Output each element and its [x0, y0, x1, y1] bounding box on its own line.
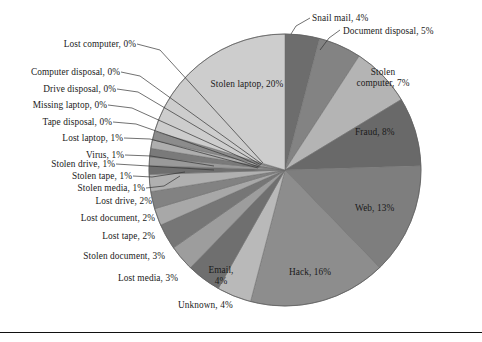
slice-label-stolen-document: Stolen document, 3% [0, 251, 165, 261]
slice-label-document-disposal: Document disposal, 5% [343, 26, 434, 36]
slice-label-unknown: Unknown, 4% [178, 300, 233, 310]
slice-label-fraud: Fraud, 8% [355, 127, 395, 137]
slice-label-web: Web, 13% [355, 203, 394, 213]
slice-label-hack: Hack, 16% [289, 267, 331, 277]
slice-label-lost-drive: Lost drive, 2% [0, 196, 152, 206]
slice-label-missing-laptop: Missing laptop, 0% [0, 100, 107, 110]
slice-label-drive-disposal: Drive disposal, 0% [0, 84, 116, 94]
slice-label-tape-disposal: Tape disposal, 0% [0, 117, 112, 127]
slice-label-stolen-computer-line2: computer, 7% [343, 78, 423, 88]
slice-label-lost-computer: Lost computer, 0% [0, 39, 136, 49]
slice-label-computer-disposal: Computer disposal, 0% [0, 67, 120, 77]
slice-label-stolen-computer-line1: Stolen [343, 67, 423, 77]
leader-snail-mail [291, 18, 310, 34]
slice-label-stolen-tape: Stolen tape, 1% [0, 171, 132, 181]
slice-label-stolen-media: Stolen media, 1% [0, 183, 145, 193]
slice-label-stolen-laptop: Stolen laptop, 20% [182, 79, 312, 89]
slice-label-stolen-drive: Stolen drive, 1% [0, 159, 115, 169]
slice-label-lost-tape: Lost tape, 2% [0, 231, 155, 241]
slice-label-email-line2: 4% [199, 276, 243, 286]
slice-label-email-line1: Email, [199, 265, 243, 275]
slice-label-snail-mail: Snail mail, 4% [312, 13, 368, 23]
slice-label-lost-media: Lost media, 3% [0, 273, 178, 283]
slice-label-lost-document: Lost document, 2% [0, 213, 155, 223]
slice-label-lost-laptop: Lost laptop, 1% [0, 133, 123, 143]
bottom-divider-rule [0, 332, 482, 333]
pie-chart-figure: Snail mail, 4% Document disposal, 5% Los… [0, 0, 482, 342]
